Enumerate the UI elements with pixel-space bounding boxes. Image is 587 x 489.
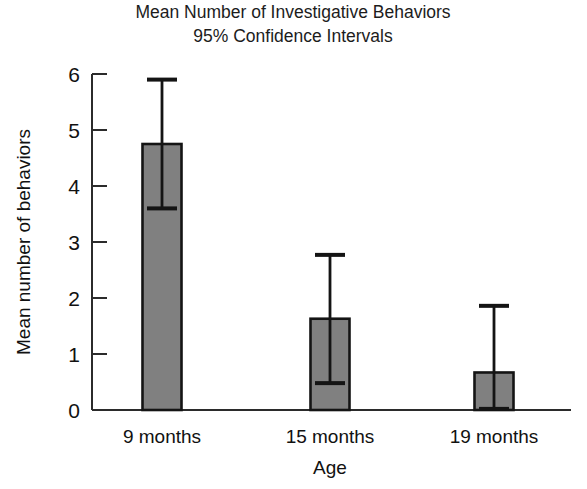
x-axis-title: Age — [313, 457, 347, 478]
x-axis-tick-labels: 9 months 15 months 19 months — [123, 426, 538, 447]
y-tick-label-5: 5 — [68, 119, 80, 142]
chart-title-line-1: Mean Number of Investigative Behaviors — [135, 2, 450, 22]
y-tick-label-6: 6 — [68, 63, 80, 86]
x-tick-label-0: 9 months — [123, 426, 201, 447]
x-tick-label-2: 19 months — [450, 426, 539, 447]
bar-chart-figure: Mean Number of Investigative Behaviors 9… — [0, 0, 587, 489]
y-tick-label-1: 1 — [68, 343, 80, 366]
y-tick-label-4: 4 — [68, 175, 80, 198]
y-tick-label-0: 0 — [68, 399, 80, 422]
chart-background — [0, 0, 587, 489]
y-tick-label-2: 2 — [68, 287, 80, 310]
x-tick-label-1: 15 months — [286, 426, 375, 447]
y-tick-label-3: 3 — [68, 231, 80, 254]
y-axis-title: Mean number of behaviors — [13, 129, 34, 355]
chart-subtitle-line-2: 95% Confidence Intervals — [193, 26, 393, 46]
